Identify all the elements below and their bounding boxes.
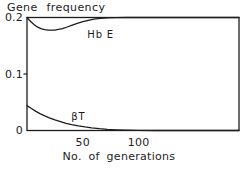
axes-frame bbox=[27, 18, 239, 131]
curve-beta-t bbox=[27, 106, 239, 131]
gene-frequency-figure: Gene frequency 0.20.1050100Hb EβT No. of… bbox=[0, 0, 246, 171]
curve-hb-e bbox=[27, 18, 239, 31]
x-axis-label: No. of generations bbox=[63, 150, 176, 163]
plot-canvas bbox=[0, 0, 246, 171]
